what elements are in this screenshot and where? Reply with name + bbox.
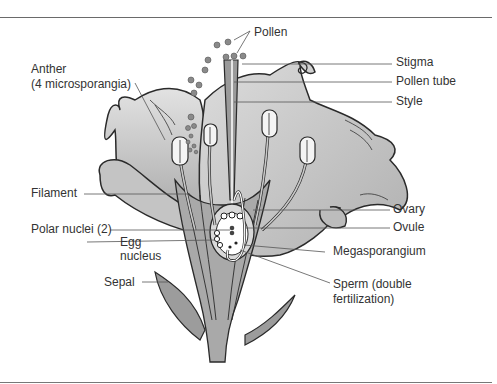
anther-3 [262,110,277,137]
label-stigma: Stigma [396,56,433,69]
label-anther-sub: (4 microsporangia) [31,78,131,91]
label-filament: Filament [31,187,77,200]
label-megasporangium: Megasporangium [333,245,426,258]
label-anther: Anther [31,63,66,76]
label-egg-nucleus: nucleus [120,250,161,263]
label-ovule: Ovule [393,221,424,234]
label-style: Style [396,95,423,108]
label-pollen-tube: Pollen tube [396,75,456,88]
label-sepal: Sepal [104,276,135,289]
label-ovary: Ovary [393,203,425,216]
label-pollen: Pollen [254,26,287,39]
label-egg: Egg [120,236,141,249]
label-polar-nuclei: Polar nuclei (2) [31,223,112,236]
label-sperm-sub: fertilization) [333,293,394,306]
anther-4 [300,137,315,164]
label-sperm: Sperm (double [333,278,412,291]
anther-2 [204,124,217,146]
